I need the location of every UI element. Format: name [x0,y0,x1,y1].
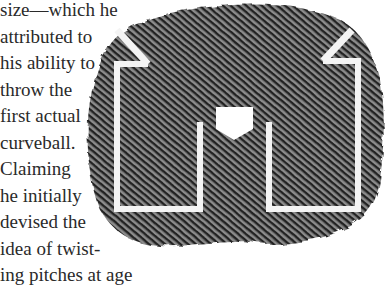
article-text-column: size—which he attributed to his ability … [0,0,135,289]
text-line: idea of twist- [0,236,135,263]
text-line: Claiming [0,156,135,183]
text-line: devised the [0,209,135,236]
text-line: first actual [0,103,135,130]
text-line: size—which he [0,0,135,24]
text-line: curveball. [0,130,135,157]
text-line: his ability to [0,50,135,77]
text-line: throw the [0,77,135,104]
text-line: he initially [0,183,135,210]
text-line: ing pitches at age [0,262,135,289]
text-line: attributed to [0,24,135,51]
